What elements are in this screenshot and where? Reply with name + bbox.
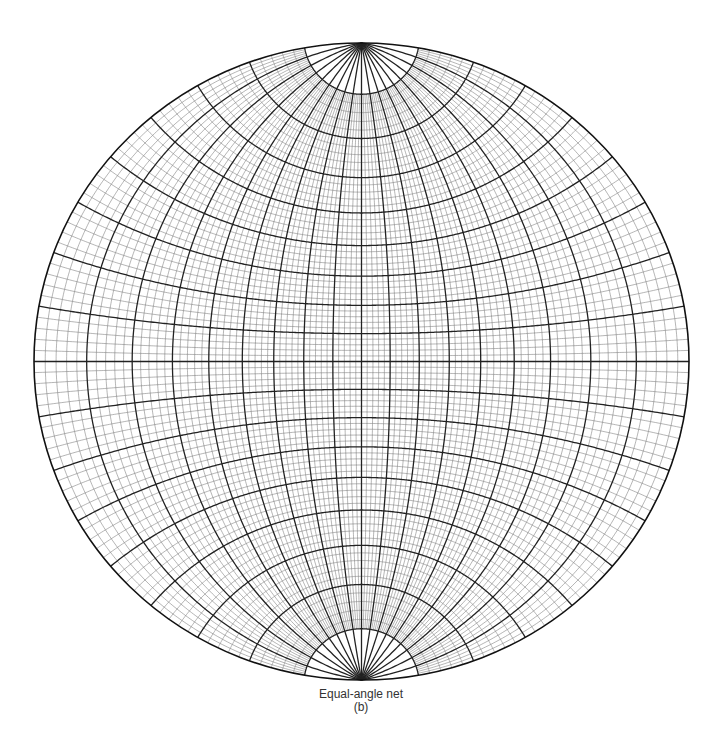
stereonet-diagram <box>0 0 716 750</box>
figure-sublabel: (b) <box>0 701 716 714</box>
major-grid-lines <box>34 43 689 680</box>
